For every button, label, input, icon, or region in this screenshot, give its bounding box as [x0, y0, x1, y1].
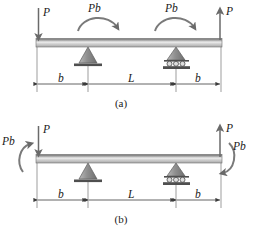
dimension-b-L-label: L: [127, 188, 134, 200]
dimension-b-b-left: b: [38, 188, 87, 200]
moment-a-right: Pb: [155, 2, 194, 31]
beam-b: [36, 155, 222, 164]
moment-b-right-label: Pb: [232, 140, 246, 152]
caption-a: (a): [115, 97, 128, 110]
force-left-a-label: P: [42, 6, 50, 18]
support-pin-a: [74, 47, 102, 66]
figure-free-body-diagrams: P P Pb Pb: [0, 0, 258, 233]
dimension-a-b-left-label: b: [58, 72, 64, 84]
moment-b-right: Pb: [223, 140, 246, 173]
panel-a: P P Pb Pb: [36, 2, 233, 110]
force-right-a-label: P: [225, 5, 233, 17]
moment-a-left: Pb: [78, 2, 117, 31]
support-roller-a: [163, 47, 190, 69]
dimension-extensions-b: [37, 163, 221, 208]
dimension-extensions-a: [37, 47, 221, 92]
moment-b-left-label: Pb: [1, 135, 15, 147]
dimension-a-b-left: b: [38, 72, 87, 84]
force-left-a: P: [39, 6, 51, 37]
dimension-b-b-right: b: [177, 188, 220, 200]
force-left-b-label: P: [42, 123, 50, 135]
support-pin-b: [74, 163, 102, 182]
dimension-b-b-right-label: b: [195, 188, 201, 200]
support-roller-b: [163, 163, 190, 185]
dimension-a-L: L: [89, 72, 175, 84]
dimension-a-L-label: L: [127, 72, 134, 84]
moment-a-right-label: Pb: [164, 2, 178, 14]
dimension-b-L: L: [89, 188, 175, 200]
diagram-canvas: P P Pb Pb: [0, 0, 258, 233]
caption-b: (b): [115, 213, 128, 226]
force-left-b: P: [39, 123, 51, 153]
moment-b-left: Pb: [1, 135, 30, 172]
dimension-b-b-left-label: b: [58, 188, 64, 200]
panel-b: P P Pb Pb: [1, 122, 246, 226]
beam-a: [36, 39, 222, 48]
dimension-a-b-right-label: b: [195, 72, 201, 84]
force-right-b: P: [220, 122, 233, 157]
moment-a-left-label: Pb: [87, 2, 101, 14]
force-right-a: P: [220, 5, 233, 40]
force-right-b-label: P: [225, 122, 233, 134]
dimension-a-b-right: b: [177, 72, 220, 84]
